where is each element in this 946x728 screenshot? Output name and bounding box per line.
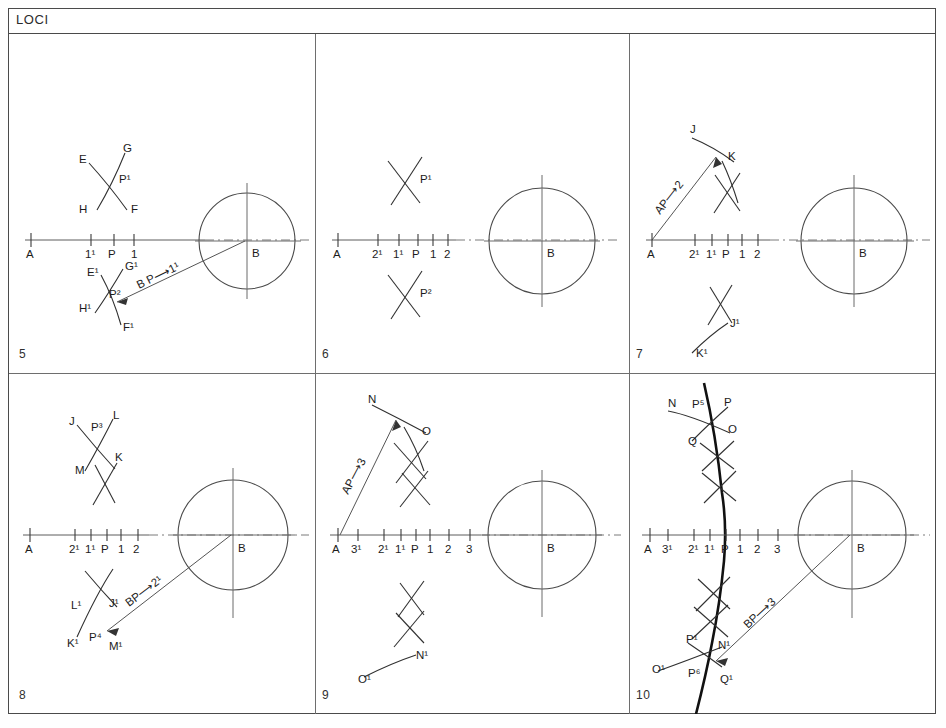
- label-axis-B: B: [252, 247, 260, 259]
- panel-5[interactable]: E G P¹ H F A 1¹ P 1 B E¹ G¹ P² H¹ F¹ B P…: [9, 35, 315, 373]
- label-Jp: J¹: [730, 317, 740, 329]
- label-Mp: M¹: [109, 640, 123, 652]
- panel-10[interactable]: N P⁵ P Q O A 3¹ 2¹ 1¹ P 1 2 3 B P¹ N¹ O¹…: [630, 375, 935, 714]
- label-L: L: [113, 409, 120, 421]
- label-axis-1p: 1¹: [395, 543, 405, 555]
- label-axis-B: B: [857, 542, 865, 554]
- panel-number: 9: [322, 688, 329, 702]
- label-axis-2: 2: [445, 543, 451, 555]
- panel-9[interactable]: N O AP⟶3 A 3¹ 2¹ 1¹ P 1 2 3 B N¹ O¹ 9: [316, 375, 629, 714]
- label-axis-1p: 1¹: [704, 543, 714, 555]
- ray-B-to-P4: [107, 535, 231, 631]
- annotation-BP-3: BP⟶3: [741, 595, 778, 630]
- label-axis-2: 2: [133, 543, 139, 555]
- arc-cross-b2: [400, 471, 428, 507]
- label-P4: P⁴: [89, 631, 102, 643]
- label-axis-3p: 3¹: [351, 543, 361, 555]
- label-J: J: [690, 123, 696, 135]
- label-axis-2: 2: [444, 248, 450, 260]
- title-bar: [8, 8, 936, 34]
- arc-lower-cross-b: [93, 463, 117, 505]
- label-axis-1p: 1¹: [393, 248, 403, 260]
- label-axis-B: B: [238, 542, 246, 554]
- label-H: H: [79, 203, 87, 215]
- label-axis-A: A: [332, 543, 340, 555]
- label-P-top: P: [724, 396, 732, 408]
- annotation-AP-3: AP⟶3: [339, 456, 368, 496]
- label-P2: P²: [420, 287, 432, 299]
- label-axis-2: 2: [754, 248, 760, 260]
- label-axis-A: A: [644, 543, 652, 555]
- label-P1: P¹: [686, 633, 698, 645]
- label-axis-P: P: [101, 543, 109, 555]
- label-Np: N¹: [416, 649, 428, 661]
- label-Kp: K¹: [67, 637, 79, 649]
- label-axis-P: P: [411, 543, 419, 555]
- annotation-BP-1p: B P⟶1¹: [135, 260, 182, 291]
- label-P5: P⁵: [692, 398, 705, 410]
- label-axis-1: 1: [118, 543, 124, 555]
- label-Op: O¹: [358, 673, 371, 685]
- label-axis-P: P: [108, 248, 116, 260]
- label-Ep: E¹: [87, 266, 99, 278]
- label-N: N: [668, 397, 676, 409]
- arc-N-O: [668, 411, 730, 433]
- label-axis-1p: 1¹: [706, 248, 716, 260]
- label-K: K: [728, 150, 736, 162]
- label-axis-3p: 3¹: [662, 543, 672, 555]
- panel-6[interactable]: P¹ A 2¹ 1¹ P 1 2 B P² 6: [316, 35, 629, 373]
- divider-horizontal-1: [9, 373, 935, 374]
- label-axis-1: 1: [739, 248, 745, 260]
- label-axis-P: P: [722, 248, 730, 260]
- label-axis-1p: 1¹: [85, 248, 95, 260]
- arc-cross-a1: [394, 443, 426, 479]
- label-Hp: H¹: [79, 302, 91, 314]
- label-axis-1: 1: [430, 248, 436, 260]
- label-axis-3: 3: [466, 543, 472, 555]
- panel-number: 5: [19, 347, 26, 361]
- panel-7[interactable]: J K AP⟶2 A 2¹ 1¹ P 1 2 B J¹ K¹ 7: [630, 35, 935, 373]
- label-F: F: [131, 203, 138, 215]
- label-axis-2p: 2¹: [689, 248, 699, 260]
- label-P3: P³: [91, 421, 103, 433]
- arc-Np-Op: [364, 655, 416, 677]
- label-Jp: J¹: [109, 597, 119, 609]
- label-M: M: [75, 464, 85, 476]
- page-title: LOCI: [16, 12, 49, 27]
- label-Op: O¹: [652, 663, 665, 675]
- label-axis-1p: 1¹: [85, 543, 95, 555]
- arc-cross-lower-a: [710, 287, 732, 323]
- label-axis-2p: 2¹: [69, 543, 79, 555]
- arc-P1-stroke-b: [391, 157, 422, 205]
- label-axis-B: B: [547, 542, 555, 554]
- label-O: O: [728, 423, 737, 435]
- label-axis-A: A: [26, 248, 34, 260]
- arc-N-O: [372, 405, 426, 433]
- label-axis-3: 3: [774, 543, 780, 555]
- panel-number: 10: [636, 688, 650, 702]
- label-P6: P⁶: [688, 667, 701, 679]
- label-axis-2p: 2¹: [372, 248, 382, 260]
- label-J: J: [69, 415, 75, 427]
- label-Lp: L¹: [71, 599, 81, 611]
- arc-cross-a2: [402, 473, 430, 505]
- arc-O-tail: [404, 427, 424, 471]
- label-axis-A: A: [333, 248, 341, 260]
- label-Fp: F¹: [123, 321, 134, 333]
- panel-number: 8: [19, 688, 26, 702]
- label-axis-A: A: [647, 248, 655, 260]
- panel-number: 7: [636, 347, 643, 361]
- label-axis-1: 1: [427, 543, 433, 555]
- label-axis-B: B: [547, 247, 555, 259]
- arc-lower-cross-a1: [400, 583, 424, 615]
- arc-Kp-Mp: [77, 569, 113, 637]
- panel-8[interactable]: J P³ L M K A 2¹ 1¹ P 1 2 B L¹ J¹ K¹ P⁴ M…: [9, 375, 315, 714]
- label-Q: Q: [688, 435, 697, 447]
- label-Qp: Q¹: [720, 673, 733, 685]
- label-axis-P: P: [721, 543, 729, 555]
- annotation-AP-2: AP⟶2: [652, 178, 685, 216]
- label-axis-1: 1: [737, 543, 743, 555]
- label-P2: P²: [109, 288, 121, 300]
- label-axis-B: B: [859, 247, 867, 259]
- arc-P2-stroke-b: [391, 271, 422, 319]
